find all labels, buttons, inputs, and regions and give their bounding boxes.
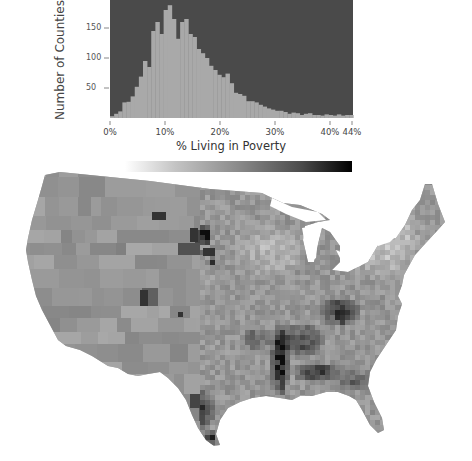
- histogram-bar: [209, 66, 213, 118]
- histogram-bar: [283, 112, 287, 118]
- county-cells: [0, 165, 472, 461]
- histogram-bar: [250, 101, 254, 118]
- x-axis-ticks: [110, 121, 352, 125]
- histogram-bar: [143, 61, 147, 118]
- histogram-bar: [304, 114, 308, 118]
- histogram-bar: [238, 94, 242, 118]
- histogram-bar: [213, 70, 217, 118]
- histogram-bar: [349, 115, 353, 118]
- histogram-bar: [193, 37, 197, 118]
- histogram-bar: [337, 114, 341, 118]
- histogram-bar: [259, 105, 263, 118]
- histogram-bar: [147, 67, 151, 118]
- histogram-bar: [312, 115, 316, 118]
- histogram-bar: [242, 96, 246, 118]
- y-tick-label: 50: [86, 83, 96, 92]
- histogram-bar: [308, 113, 312, 118]
- histogram-bar: [316, 115, 320, 118]
- histogram-bar: [122, 102, 126, 118]
- histogram-bar: [205, 58, 209, 118]
- x-tick-label: 30%: [266, 127, 285, 137]
- us-county-poverty-map: [0, 165, 472, 461]
- x-tick-label: 0%: [103, 127, 117, 137]
- histogram-bar: [110, 116, 114, 118]
- histogram-bar: [197, 49, 201, 118]
- histogram-bar: [139, 77, 143, 118]
- histogram-bar: [221, 77, 225, 118]
- y-tick-label: 100: [86, 53, 101, 62]
- histogram-bar: [341, 116, 345, 118]
- histogram-bar: [345, 115, 349, 118]
- histogram-bar: [296, 113, 300, 118]
- histogram-bar: [267, 108, 271, 118]
- histogram-bar: [333, 116, 337, 118]
- histogram-bar: [325, 114, 329, 118]
- histogram-bar: [246, 101, 250, 118]
- histogram-bar: [287, 114, 291, 118]
- histogram-bar: [188, 34, 192, 118]
- histogram-bar: [226, 74, 230, 118]
- histogram-bar: [254, 102, 258, 118]
- histogram-chart: [0, 0, 472, 160]
- y-axis-ticks: [104, 28, 109, 88]
- histogram-bar: [329, 115, 333, 118]
- x-axis-label: % Living in Poverty: [176, 139, 286, 153]
- histogram-bar: [217, 75, 221, 118]
- histogram-bar: [151, 31, 155, 118]
- histogram-bar: [114, 114, 118, 118]
- histogram-bar: [230, 83, 234, 118]
- histogram-bar: [135, 87, 139, 118]
- histogram-bar: [279, 111, 283, 118]
- histogram-bar: [164, 10, 168, 118]
- histogram-bar: [234, 93, 238, 118]
- x-tick-label: 44%: [343, 127, 362, 137]
- histogram-bar: [155, 22, 159, 118]
- histogram-bar: [118, 111, 122, 118]
- histogram-bar: [131, 96, 135, 118]
- histogram-bar: [275, 111, 279, 118]
- histogram-bar: [300, 115, 304, 118]
- x-tick-label: 10%: [156, 127, 175, 137]
- histogram-bar: [172, 19, 176, 118]
- x-tick-label: 40%: [321, 127, 340, 137]
- histogram-bar: [176, 39, 180, 118]
- histogram-bar: [292, 113, 296, 118]
- x-tick-label: 20%: [211, 127, 230, 137]
- histogram-bar: [168, 5, 172, 118]
- histogram-bar: [201, 53, 205, 118]
- histogram-bar: [263, 107, 267, 118]
- histogram-bar: [127, 102, 131, 118]
- histogram-bar: [180, 22, 184, 118]
- y-tick-label: 150: [86, 23, 101, 32]
- histogram-bar: [320, 116, 324, 118]
- histogram-bar: [160, 34, 164, 118]
- histogram-bar: [184, 19, 188, 118]
- y-axis-label: Number of Counties: [53, 0, 67, 120]
- histogram-bar: [271, 110, 275, 118]
